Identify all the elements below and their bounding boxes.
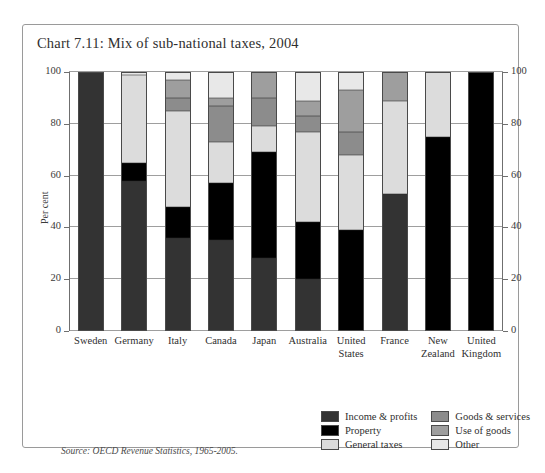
chart-legend: Income & profitsPropertyGeneral taxes Go…: [321, 411, 530, 450]
stacked-bar[interactable]: [165, 72, 191, 331]
y-tick-label-right-60: 60: [511, 169, 522, 180]
legend-label: Goods & services: [455, 411, 530, 422]
bar-segment: [382, 72, 408, 100]
legend-swatch-icon: [321, 439, 339, 450]
legend-swatch-icon: [321, 425, 339, 436]
bar-segment: [295, 222, 321, 279]
bar-segment: [382, 194, 408, 331]
legend-item-property[interactable]: Property: [321, 425, 417, 436]
x-axis-label-line: Japan: [243, 335, 286, 348]
bar-segment: [251, 126, 277, 152]
x-axis-label-united-kingdom: UnitedKingdom: [460, 335, 503, 360]
bar-segment: [165, 72, 191, 80]
legend-item-goods-services[interactable]: Goods & services: [431, 411, 530, 422]
legend-label: Other: [455, 439, 479, 450]
bar-segment: [121, 163, 147, 181]
legend-swatch-icon: [321, 411, 339, 422]
y-tick-left-40: [64, 227, 69, 228]
x-axis-label-line: Italy: [156, 335, 199, 348]
bar-group-sweden: [69, 72, 112, 331]
legend-label: General taxes: [345, 439, 402, 450]
bar-group-japan: [243, 72, 286, 331]
bar-group-germany: [112, 72, 155, 331]
bar-group-canada: [199, 72, 242, 331]
x-axis-label-line: Australia: [286, 335, 329, 348]
chart-title: Chart 7.11: Mix of sub-national taxes, 2…: [37, 35, 299, 52]
y-tick-right-0: [503, 331, 508, 332]
legend-label: Property: [345, 425, 381, 436]
bar-segment: [338, 230, 364, 331]
bar-segment: [208, 98, 234, 106]
bar-segment: [78, 72, 104, 331]
legend-label: Income & profits: [345, 411, 417, 422]
y-tick-left-100: [64, 72, 69, 73]
bar-segment: [165, 207, 191, 238]
x-axis-label-line: States: [329, 348, 372, 361]
bar-segment: [208, 142, 234, 183]
bar-segment: [121, 75, 147, 163]
legend-item-general-taxes[interactable]: General taxes: [321, 439, 417, 450]
bar-group-australia: [286, 72, 329, 331]
bar-segment: [208, 106, 234, 142]
y-axis-label: Per cent: [39, 191, 50, 224]
x-axis-label-line: Zealand: [416, 348, 459, 361]
bar-segment: [295, 132, 321, 223]
y-tick-label-right-20: 20: [511, 272, 522, 283]
y-tick-label-right-80: 80: [511, 117, 522, 128]
bar-series-container: [69, 72, 503, 331]
y-axis-right: [502, 72, 503, 331]
y-tick-left-20: [64, 279, 69, 280]
x-axis-label-france: France: [373, 335, 416, 360]
bar-segment: [251, 152, 277, 258]
legend-item-income-profits[interactable]: Income & profits: [321, 411, 417, 422]
stacked-bar[interactable]: [338, 72, 364, 331]
bar-segment: [165, 111, 191, 207]
stacked-bar[interactable]: [425, 72, 451, 331]
bar-group-united-states: [329, 72, 372, 331]
y-tick-label-right-40: 40: [511, 220, 522, 231]
bar-segment: [165, 238, 191, 331]
bar-segment: [338, 155, 364, 230]
bar-segment: [338, 90, 364, 131]
stacked-bar[interactable]: [251, 72, 277, 331]
stacked-bar[interactable]: [382, 72, 408, 331]
y-tick-label-left-60: 60: [23, 169, 61, 180]
bar-segment: [251, 98, 277, 126]
stacked-bar[interactable]: [208, 72, 234, 331]
x-axis-labels: SwedenGermanyItalyCanadaJapanAustraliaUn…: [69, 335, 503, 360]
x-axis-label-germany: Germany: [112, 335, 155, 360]
x-axis-label-line: Canada: [199, 335, 242, 348]
y-tick-left-80: [64, 124, 69, 125]
y-tick-right-100: [503, 72, 508, 73]
stacked-bar[interactable]: [468, 72, 494, 331]
y-tick-label-left-40: 40: [23, 220, 61, 231]
plot-area: [69, 72, 503, 331]
stacked-bar[interactable]: [78, 72, 104, 331]
legend-swatch-icon: [431, 425, 449, 436]
legend-item-other[interactable]: Other: [431, 439, 530, 450]
x-axis-label-line: Kingdom: [460, 348, 503, 361]
y-tick-left-0: [64, 331, 69, 332]
x-axis-label-line: Germany: [112, 335, 155, 348]
stacked-bar[interactable]: [295, 72, 321, 331]
x-axis-label-canada: Canada: [199, 335, 242, 360]
x-axis-label-sweden: Sweden: [69, 335, 112, 360]
x-axis-label-line: United: [460, 335, 503, 348]
y-tick-right-60: [503, 176, 508, 177]
legend-item-use-of-goods[interactable]: Use of goods: [431, 425, 530, 436]
x-axis-label-line: France: [373, 335, 416, 348]
y-tick-label-left-80: 80: [23, 117, 61, 128]
y-tick-label-left-20: 20: [23, 272, 61, 283]
x-axis-label-united-states: UnitedStates: [329, 335, 372, 360]
bar-segment: [425, 72, 451, 137]
bar-segment: [208, 72, 234, 98]
bar-group-italy: [156, 72, 199, 331]
bar-segment: [295, 279, 321, 331]
x-axis-label-japan: Japan: [243, 335, 286, 360]
bar-segment: [425, 137, 451, 331]
legend-column-left: Income & profitsPropertyGeneral taxes: [321, 411, 417, 450]
x-axis-label-new-zealand: NewZealand: [416, 335, 459, 360]
stacked-bar[interactable]: [121, 72, 147, 331]
bar-segment: [468, 72, 494, 331]
y-tick-left-60: [64, 176, 69, 177]
